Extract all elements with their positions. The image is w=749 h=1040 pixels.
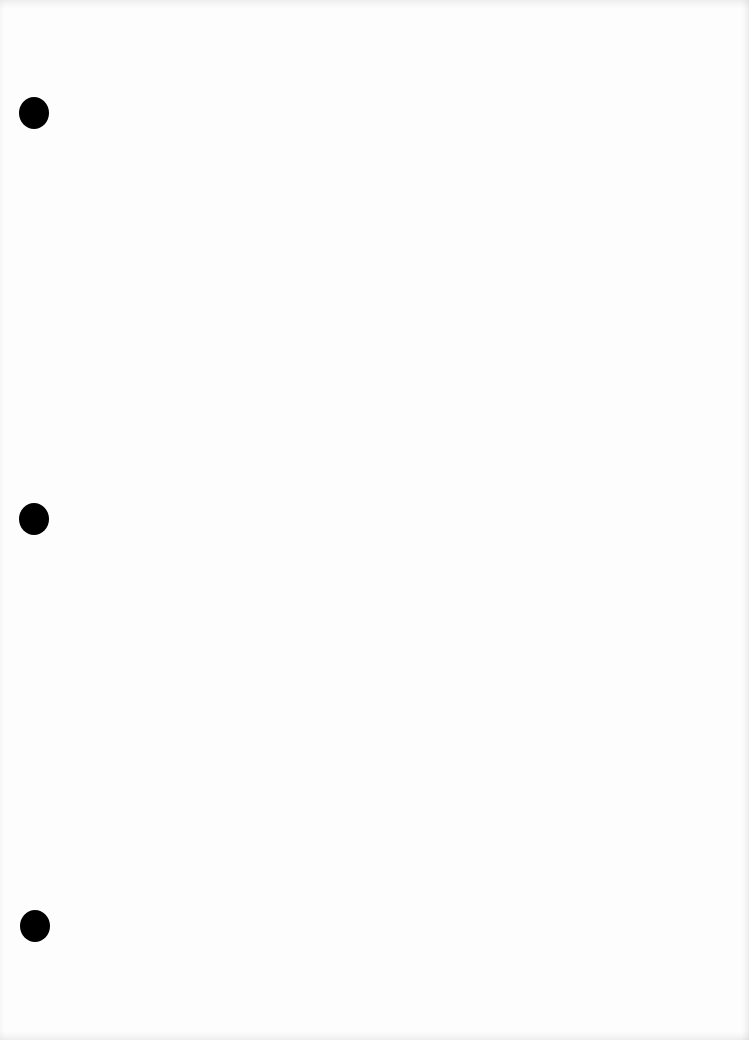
punch-hole-bottom [20, 910, 50, 942]
page-body [70, 40, 709, 1000]
punch-hole-top [19, 97, 49, 129]
scanned-page [0, 0, 749, 1040]
punch-hole-middle [19, 503, 49, 535]
